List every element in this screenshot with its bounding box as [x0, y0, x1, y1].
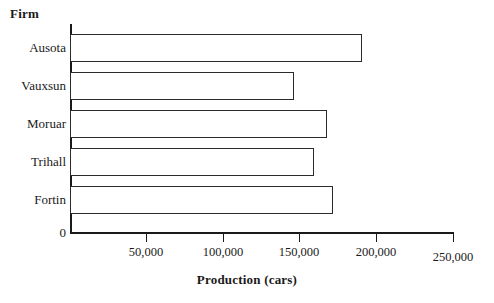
tick-label-150000: 150,000: [264, 245, 334, 260]
tick-mark-250000: [453, 233, 454, 242]
value-axis-title: Production (cars): [0, 272, 494, 288]
tick-mark-150000: [299, 233, 300, 242]
bar-moruar: [70, 110, 327, 138]
bar-fortin: [70, 186, 333, 214]
bar-ausota: [70, 34, 362, 62]
category-label-fortin: Fortin: [0, 193, 66, 207]
value-axis-line: [70, 232, 454, 234]
bar-vauxsun: [70, 72, 294, 100]
category-label-trihall: Trihall: [0, 155, 66, 169]
bar-trihall: [70, 148, 314, 176]
tick-mark-200000: [376, 233, 377, 242]
tick-label-100000: 100,000: [188, 245, 258, 260]
tick-label-200000: 200,000: [341, 245, 411, 260]
tick-mark-100000: [223, 233, 224, 242]
category-label-vauxsun: Vauxsun: [0, 79, 66, 93]
tick-mark-50000: [146, 233, 147, 242]
category-axis-title: Firm: [10, 6, 39, 22]
category-label-moruar: Moruar: [0, 117, 66, 131]
tick-label-250000: 250,000: [418, 250, 488, 265]
origin-tick-label: 0: [0, 226, 66, 240]
horizontal-bar-chart: Firm Ausota Vauxsun Moruar Trihall Forti…: [0, 0, 494, 303]
tick-label-50000: 50,000: [111, 245, 181, 260]
category-label-ausota: Ausota: [0, 41, 66, 55]
